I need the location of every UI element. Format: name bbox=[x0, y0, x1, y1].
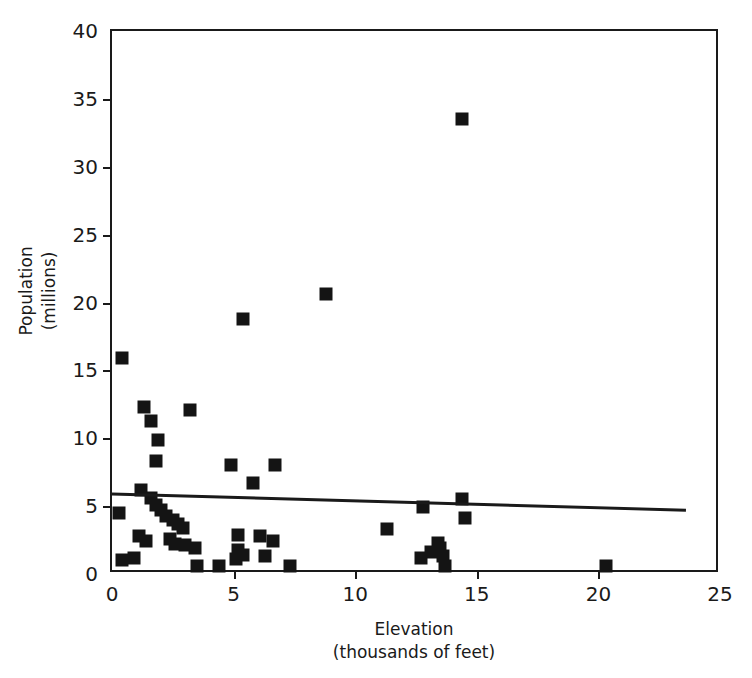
x-axis-tick bbox=[355, 570, 357, 579]
y-axis-tick-label: 25 bbox=[73, 225, 98, 245]
x-axis-tick-label: 15 bbox=[464, 584, 489, 604]
x-axis-tick-label: 5 bbox=[227, 584, 240, 604]
x-axis-tick bbox=[477, 570, 479, 579]
y-axis-tick bbox=[103, 303, 112, 305]
y-axis-tick-label: 35 bbox=[73, 89, 98, 109]
scatter-plot-figure: 05101520253035400510152025 Elevation (th… bbox=[0, 0, 752, 678]
y-axis-tick-label: 0 bbox=[85, 564, 98, 584]
x-axis-label: Elevation (thousands of feet) bbox=[110, 618, 718, 664]
y-axis-label-line2: (millions) bbox=[38, 201, 61, 381]
x-axis-tick-label: 20 bbox=[586, 584, 611, 604]
trend-line bbox=[112, 31, 720, 574]
y-axis-tick-label: 15 bbox=[73, 360, 98, 380]
x-axis-tick bbox=[598, 570, 600, 579]
y-axis-tick bbox=[103, 506, 112, 508]
y-axis-tick-label: 5 bbox=[85, 496, 98, 516]
y-axis-tick bbox=[103, 370, 112, 372]
y-axis-tick-label: 20 bbox=[73, 293, 98, 313]
trend-line-segment bbox=[112, 494, 686, 510]
y-axis-tick bbox=[103, 235, 112, 237]
y-axis-tick-label: 30 bbox=[73, 157, 98, 177]
x-axis-label-line1: Elevation bbox=[110, 618, 718, 641]
plot-frame: 05101520253035400510152025 bbox=[110, 29, 718, 572]
y-axis-label: Population (millions) bbox=[15, 201, 61, 381]
y-axis-tick bbox=[103, 438, 112, 440]
y-axis-tick-label: 40 bbox=[73, 21, 98, 41]
x-axis-tick bbox=[234, 570, 236, 579]
x-axis-tick-label: 25 bbox=[707, 584, 732, 604]
x-axis-label-line2: (thousands of feet) bbox=[110, 641, 718, 664]
y-axis-label-line1: Population bbox=[15, 201, 38, 381]
y-axis-tick bbox=[103, 167, 112, 169]
x-axis-tick-label: 10 bbox=[342, 584, 367, 604]
y-axis-tick-label: 10 bbox=[73, 428, 98, 448]
x-axis-tick-label: 0 bbox=[106, 584, 119, 604]
y-axis-tick bbox=[103, 99, 112, 101]
